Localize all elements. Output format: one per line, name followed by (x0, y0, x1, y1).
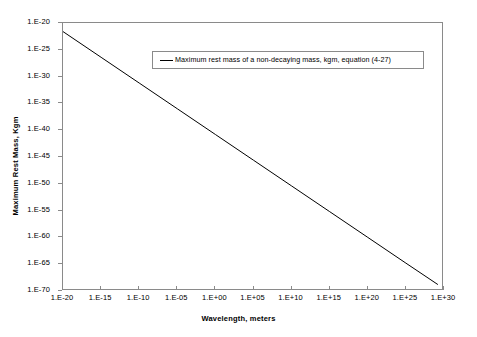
chart-legend: Maximum rest mass of a non-decaying mass… (152, 51, 424, 69)
y-axis-tick-label: 1.E-65 (27, 259, 50, 267)
x-axis-tick-mark (291, 286, 292, 290)
x-axis-tick-mark (214, 286, 215, 290)
x-axis-tick-mark (367, 286, 368, 290)
x-axis-tick-label: 1.E+05 (240, 293, 265, 302)
y-axis-tick-label: 1.E-40 (27, 125, 50, 133)
legend-entry-label: Maximum rest mass of a non-decaying mass… (175, 56, 391, 64)
y-axis-tick-label: 1.E-60 (27, 233, 50, 241)
chart-figure: 1.E-201.E-251.E-301.E-351.E-401.E-451.E-… (0, 0, 477, 337)
x-axis-tick-label: 1.E+00 (202, 293, 227, 302)
x-axis-tick-mark (443, 286, 444, 290)
x-axis-tick-label: 1.E-10 (127, 293, 150, 302)
x-axis-tick-label: 1.E+10 (278, 293, 303, 302)
y-axis-tick-label: 1.E-30 (27, 72, 50, 80)
x-axis-tick-mark (138, 286, 139, 290)
x-axis-tick-mark (405, 286, 406, 290)
x-axis-tick-marks (62, 285, 443, 290)
y-axis-title-text: Maximum Rest Mass, Kgm (11, 116, 20, 215)
x-axis-tick-mark (176, 286, 177, 290)
x-axis-tick-labels: 1.E-201.E-151.E-101.E-051.E+001.E+051.E+… (62, 293, 443, 305)
x-axis-tick-label: 1.E+20 (355, 293, 380, 302)
x-axis-tick-label: 1.E+15 (316, 293, 341, 302)
x-axis-tick-label: 1.E-15 (89, 293, 112, 302)
x-axis-tick-mark (253, 286, 254, 290)
y-axis-tick-label: 1.E-70 (27, 286, 50, 294)
legend-line-swatch-icon (160, 60, 173, 61)
x-axis-tick-mark (100, 286, 101, 290)
x-axis-tick-label: 1.E+30 (431, 293, 456, 302)
y-axis-tick-label: 1.E-25 (27, 45, 50, 53)
y-axis-tick-label: 1.E-45 (27, 152, 50, 160)
series-line-max-rest-mass (63, 32, 438, 285)
x-axis-tick-mark (329, 286, 330, 290)
x-axis-tick-label: 1.E+25 (393, 293, 418, 302)
y-axis-tick-label: 1.E-55 (27, 206, 50, 214)
y-axis-tick-label: 1.E-35 (27, 99, 50, 107)
y-axis-tick-mark (58, 290, 62, 291)
y-axis-title: Maximum Rest Mass, Kgm (8, 96, 22, 236)
y-axis-tick-label: 1.E-20 (27, 18, 50, 26)
x-axis-title: Wavelength, meters (0, 314, 477, 323)
x-axis-tick-label: 1.E-20 (51, 293, 74, 302)
y-axis-tick-label: 1.E-50 (27, 179, 50, 187)
x-axis-tick-label: 1.E-05 (165, 293, 188, 302)
